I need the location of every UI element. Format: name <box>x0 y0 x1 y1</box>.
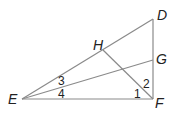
point-label-f: F <box>155 95 165 111</box>
point-label-e: E <box>8 91 18 107</box>
point-label-g: G <box>156 51 167 67</box>
angle-label-1: 1 <box>134 87 141 101</box>
angle-label-2: 2 <box>143 77 150 91</box>
point-label-d: D <box>157 7 167 23</box>
angle-label-3: 3 <box>58 74 65 88</box>
angle-label-4: 4 <box>58 87 65 101</box>
point-label-h: H <box>93 37 104 53</box>
segment-HF <box>103 50 153 99</box>
geometry-diagram: D G F E H 3 4 1 2 <box>0 0 173 114</box>
